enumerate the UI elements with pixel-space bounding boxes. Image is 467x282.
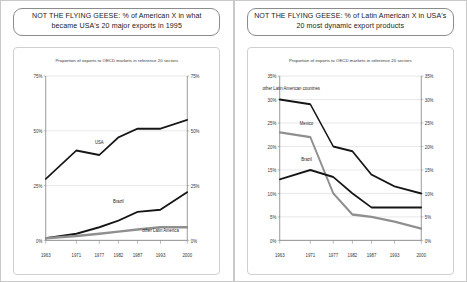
series-label: USA — [95, 138, 104, 145]
x-tick-label: 1987 — [133, 251, 143, 258]
y-tick-label-right: 35% — [424, 73, 433, 80]
x-tick-label: 1963 — [275, 251, 285, 258]
y-tick-label-left: 75% — [34, 73, 43, 80]
plot-area-right: 0%0%5%5%10%10%15%15%20%20%25%25%30%30%35… — [254, 68, 447, 270]
y-tick-label-left: 10% — [267, 190, 276, 197]
y-tick-label-right: 25% — [191, 182, 200, 189]
series-label: Mexico — [300, 120, 314, 127]
x-tick-label: 1993 — [156, 251, 166, 258]
x-tick-label: 1993 — [389, 251, 399, 258]
y-tick-label-left: 5% — [270, 213, 277, 220]
panel-left-title: NOT THE FLYING GEESE: % of American X in… — [20, 12, 213, 31]
x-tick-label: 1977 — [95, 251, 105, 258]
y-tick-label-right: 5% — [424, 213, 431, 220]
series-label: other Latin America — [142, 226, 179, 233]
y-tick-label-right: 25% — [424, 119, 433, 126]
y-tick-label-right: 20% — [424, 143, 433, 150]
panel-right-title: NOT THE FLYING GEESE: % of Latin America… — [254, 12, 447, 31]
y-tick-label-right: 0% — [424, 237, 431, 244]
panel-right-title-box: NOT THE FLYING GEESE: % of Latin America… — [247, 8, 454, 36]
x-tick-label: 1971 — [72, 251, 82, 258]
plot-area-left: 0%0%25%25%50%50%75%75%196319711977198219… — [20, 68, 213, 270]
panel-left-chart-card: Proportion of exports to OECD markets in… — [13, 47, 220, 275]
y-tick-label-right: 30% — [424, 96, 433, 103]
series-line — [46, 120, 188, 179]
y-tick-label-left: 20% — [267, 143, 276, 150]
y-tick-label-left: 25% — [34, 182, 43, 189]
x-tick-label: 2000 — [183, 251, 193, 258]
x-tick-label: 1963 — [41, 251, 51, 258]
y-tick-label-left: 30% — [267, 96, 276, 103]
x-tick-label: 1982 — [114, 251, 124, 258]
x-tick-label: 1971 — [305, 251, 315, 258]
y-tick-label-left: 50% — [34, 127, 43, 134]
line-chart-left: 0%0%25%25%50%50%75%75%196319711977198219… — [20, 68, 213, 270]
x-tick-label: 1987 — [366, 251, 376, 258]
line-chart-right: 0%0%5%5%10%10%15%15%20%20%25%25%30%30%35… — [254, 68, 447, 270]
y-tick-label-right: 10% — [424, 190, 433, 197]
y-tick-label-left: 35% — [267, 73, 276, 80]
y-tick-label-right: 50% — [191, 127, 200, 134]
slide-pair: NOT THE FLYING GEESE: % of American X in… — [0, 0, 467, 282]
y-tick-label-left: 0% — [36, 237, 43, 244]
series-label: Brazil — [301, 155, 312, 162]
y-tick-label-left: 25% — [267, 119, 276, 126]
series-label: other Latin American countries — [262, 84, 320, 91]
chart-subtitle-left: Proportion of exports to OECD markets in… — [20, 58, 213, 64]
panel-left: NOT THE FLYING GEESE: % of American X in… — [0, 0, 234, 282]
chart-subtitle-right: Proportion of exports to OECD markets in… — [254, 58, 447, 64]
series-label: Brazil — [113, 197, 124, 204]
y-tick-label-left: 15% — [267, 166, 276, 173]
panel-right-chart-card: Proportion of exports to OECD markets in… — [247, 47, 454, 275]
panel-left-title-box: NOT THE FLYING GEESE: % of American X in… — [13, 8, 220, 36]
y-tick-label-right: 75% — [191, 73, 200, 80]
y-tick-label-right: 0% — [191, 237, 198, 244]
series-line — [279, 132, 421, 228]
x-tick-label: 1982 — [347, 251, 357, 258]
panel-right: NOT THE FLYING GEESE: % of Latin America… — [234, 0, 467, 282]
x-tick-label: 1977 — [328, 251, 338, 258]
y-tick-label-left: 0% — [270, 237, 277, 244]
y-tick-label-right: 15% — [424, 166, 433, 173]
x-tick-label: 2000 — [416, 251, 426, 258]
